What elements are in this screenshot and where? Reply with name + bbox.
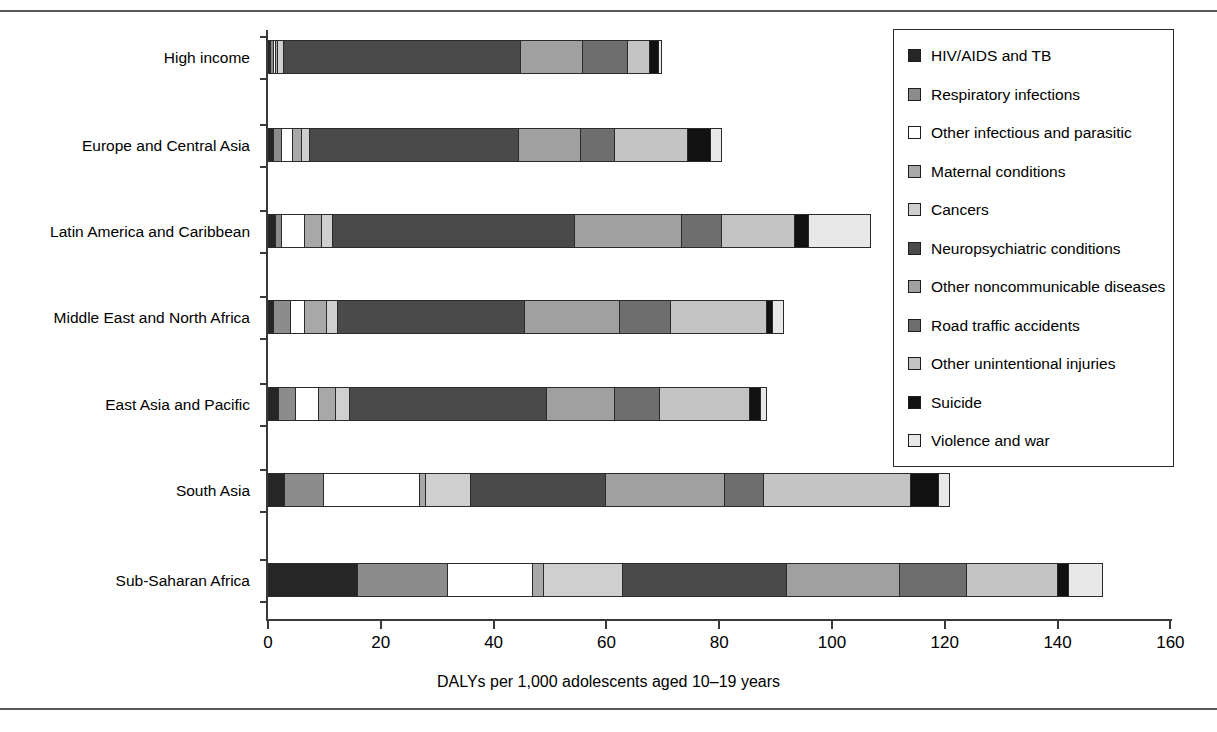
legend-swatch-icon — [908, 434, 921, 447]
bar-segment — [809, 214, 871, 248]
bar-segment — [671, 300, 767, 334]
bar-segment — [285, 473, 324, 507]
x-tick-60 — [605, 621, 607, 629]
bar-segment — [324, 473, 420, 507]
bar-segment — [282, 128, 293, 162]
bar-segment — [302, 128, 310, 162]
bar-segment — [795, 214, 809, 248]
category-label-6: Sub-Saharan Africa — [0, 572, 250, 590]
legend-item-label: Other unintentional injuries — [931, 354, 1115, 373]
bar-segment — [525, 300, 621, 334]
category-label-5: South Asia — [0, 482, 250, 500]
legend-swatch-icon — [908, 165, 921, 178]
bar-segment — [521, 40, 583, 74]
category-label-2: Latin America and Caribbean — [0, 223, 250, 241]
bar-segment — [764, 473, 911, 507]
legend-item-3[interactable]: Maternal conditions — [908, 162, 1173, 181]
bar-segment — [293, 128, 301, 162]
bar-segment — [305, 214, 322, 248]
bar-segment — [284, 40, 521, 74]
legend-item-7[interactable]: Road traffic accidents — [908, 316, 1173, 335]
y-tick-4-1 — [260, 425, 268, 427]
y-tick-5-1 — [260, 511, 268, 513]
category-label-0: High income — [0, 49, 250, 67]
legend-item-6[interactable]: Other noncommunicable diseases — [908, 277, 1173, 296]
category-label-1: Europe and Central Asia — [0, 137, 250, 155]
y-tick-2-0 — [260, 210, 268, 212]
x-tick-label-60: 60 — [576, 633, 636, 653]
bar-segment — [606, 473, 724, 507]
bar-row — [268, 300, 784, 334]
x-tick-label-140: 140 — [1028, 633, 1088, 653]
bar-segment — [519, 128, 581, 162]
legend-swatch-icon — [908, 242, 921, 255]
bar-segment — [773, 300, 784, 334]
legend-item-10[interactable]: Violence and war — [908, 431, 1173, 450]
bar-segment — [296, 387, 319, 421]
bar-segment — [322, 214, 333, 248]
y-tick-6-0 — [260, 559, 268, 561]
legend-item-4[interactable]: Cancers — [908, 200, 1173, 219]
bar-segment — [650, 40, 658, 74]
bar-segment — [1058, 563, 1069, 597]
legend-swatch-icon — [908, 88, 921, 101]
y-tick-4-0 — [260, 383, 268, 385]
legend-item-9[interactable]: Suicide — [908, 393, 1173, 412]
bottom-rule — [0, 708, 1217, 710]
bar-segment — [1069, 563, 1103, 597]
bar-row — [268, 473, 950, 507]
bar-segment — [688, 128, 711, 162]
bar-segment — [725, 473, 764, 507]
legend-swatch-icon — [908, 203, 921, 216]
x-tick-120 — [944, 621, 946, 629]
bar-segment — [336, 387, 350, 421]
bar-segment — [660, 387, 750, 421]
legend-item-8[interactable]: Other unintentional injuries — [908, 354, 1173, 373]
legend-item-label: Violence and war — [931, 431, 1050, 450]
bar-segment — [533, 563, 544, 597]
bar-segment — [620, 300, 671, 334]
legend-item-5[interactable]: Neuropsychiatric conditions — [908, 239, 1173, 258]
bar-segment — [448, 563, 533, 597]
bar-segment — [623, 563, 787, 597]
bar-segment — [426, 473, 471, 507]
bar-segment — [911, 473, 939, 507]
legend-item-label: Other infectious and parasitic — [931, 123, 1132, 142]
bar-segment — [900, 563, 968, 597]
bar-segment — [547, 387, 615, 421]
bar-segment — [711, 128, 722, 162]
bar-row — [268, 128, 722, 162]
top-rule — [0, 10, 1217, 12]
x-tick-label-120: 120 — [915, 633, 975, 653]
x-tick-160 — [1169, 621, 1171, 629]
bar-row — [268, 387, 767, 421]
bar-segment — [305, 300, 328, 334]
bar-row — [268, 40, 662, 74]
x-tick-label-0: 0 — [238, 633, 298, 653]
bar-segment — [939, 473, 950, 507]
bar-segment — [274, 300, 291, 334]
legend-swatch-icon — [908, 126, 921, 139]
y-tick-6-1 — [260, 601, 268, 603]
bar-segment — [581, 128, 615, 162]
bar-segment — [615, 128, 688, 162]
x-tick-100 — [831, 621, 833, 629]
bar-segment — [761, 387, 767, 421]
y-tick-0-0 — [260, 36, 268, 38]
x-tick-label-100: 100 — [802, 633, 862, 653]
legend-item-2[interactable]: Other infectious and parasitic — [908, 123, 1173, 142]
category-label-4: East Asia and Pacific — [0, 396, 250, 414]
bar-segment — [279, 387, 296, 421]
y-tick-0-1 — [260, 78, 268, 80]
legend-item-1[interactable]: Respiratory infections — [908, 85, 1173, 104]
bar-segment — [358, 563, 448, 597]
bar-segment — [722, 214, 795, 248]
bar-segment — [338, 300, 524, 334]
bar-segment — [268, 563, 358, 597]
legend-box: HIV/AIDS and TBRespiratory infectionsOth… — [893, 29, 1174, 467]
chart-figure: High incomeEurope and Central AsiaLatin … — [0, 0, 1217, 732]
legend-item-label: Cancers — [931, 200, 989, 219]
legend-swatch-icon — [908, 319, 921, 332]
bar-segment — [282, 214, 305, 248]
legend-item-0[interactable]: HIV/AIDS and TB — [908, 46, 1173, 65]
